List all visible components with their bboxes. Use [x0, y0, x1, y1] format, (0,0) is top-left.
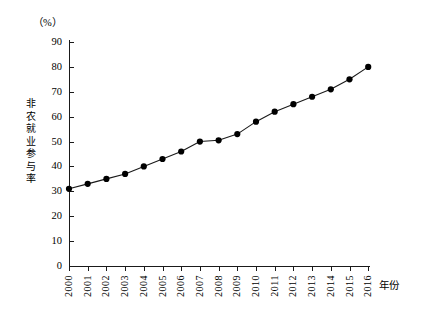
- data-point: [197, 138, 203, 144]
- data-point: [234, 131, 240, 137]
- data-point: [85, 181, 91, 187]
- data-point: [178, 148, 184, 154]
- data-point: [122, 171, 128, 177]
- data-point: [346, 76, 352, 82]
- data-point: [365, 64, 371, 70]
- series-line: [69, 67, 368, 189]
- chart-container: （%） 非 农 就 业 参 与 率 0102030405060708090 20…: [0, 0, 430, 318]
- data-point: [309, 94, 315, 100]
- series-plot: [0, 0, 430, 318]
- data-point: [216, 137, 222, 143]
- data-point: [328, 86, 334, 92]
- data-point: [141, 163, 147, 169]
- data-point: [159, 156, 165, 162]
- data-point: [103, 176, 109, 182]
- data-point: [66, 186, 72, 192]
- x-axis-title: 年份: [379, 277, 399, 292]
- data-point: [290, 101, 296, 107]
- data-point: [253, 119, 259, 125]
- series-markers: [66, 64, 371, 192]
- data-point: [272, 109, 278, 115]
